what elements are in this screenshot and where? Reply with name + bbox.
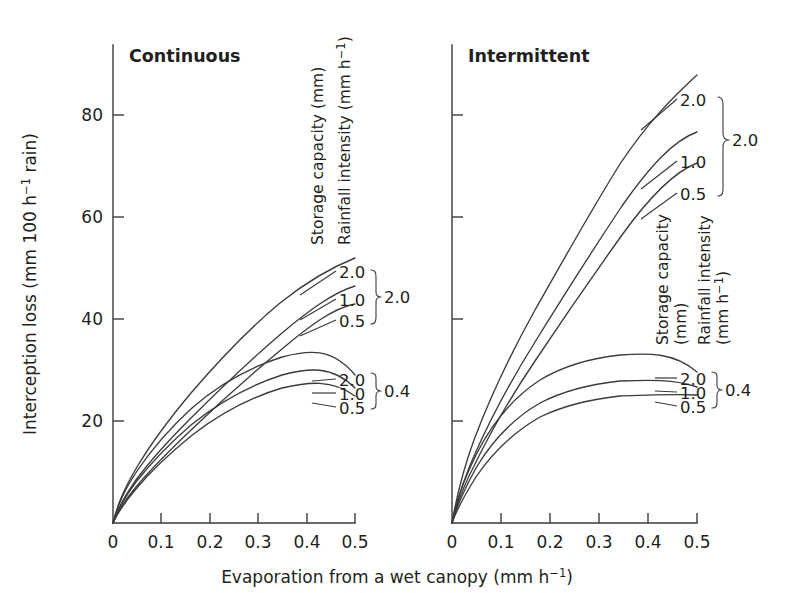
label-intermittent-i2.0-s2.0: 2.0 xyxy=(680,91,706,110)
legend-storage-capacity-intermittent-line1: Storage capacity xyxy=(654,214,672,345)
panel-intermittent-y-ticks xyxy=(452,115,463,421)
group-label-intermittent-0.4: 0.4 xyxy=(725,381,751,400)
x-tick-label-0.5-right: 0.5 xyxy=(683,532,710,552)
label-intermittent-i2.0-s1.0: 1.0 xyxy=(680,153,706,172)
x-tick-label-0.5-left: 0.5 xyxy=(341,532,368,552)
label-continuous-i2.0-s2.0: 2.0 xyxy=(339,263,365,282)
curve-continuous-i0.4-s2.0 xyxy=(113,352,355,523)
x-axis-title: Evaporation from a wet canopy (mm h−1) xyxy=(221,566,573,587)
group-label-intermittent-2.0: 2.0 xyxy=(732,131,758,150)
chart-svg: 20 40 60 80 0 0.1 0.2 0.3 0.4 0.5 Contin… xyxy=(0,0,794,593)
label-continuous-i0.4-s0.5: 0.5 xyxy=(339,399,365,418)
figure-container: 20 40 60 80 0 0.1 0.2 0.3 0.4 0.5 Contin… xyxy=(0,0,794,593)
panel-continuous: 20 40 60 80 0 0.1 0.2 0.3 0.4 0.5 Contin… xyxy=(81,36,410,552)
label-intermittent-i0.4-s0.5: 0.5 xyxy=(680,398,706,417)
x-axis-title-sup: −1 xyxy=(549,566,566,580)
svg-text:(mm h−1): (mm h−1) xyxy=(712,271,732,345)
curve-intermittent-i0.4-s0.5 xyxy=(452,395,697,523)
y-axis-title-tail: rain) xyxy=(20,133,40,178)
x-tick-label-0.1-right: 0.1 xyxy=(487,532,514,552)
x-tick-label-0.2-left: 0.2 xyxy=(196,532,223,552)
x-tick-label-0.4-left: 0.4 xyxy=(293,532,320,552)
legend-storage-capacity-intermittent-line2: (mm) xyxy=(672,303,690,345)
legend-storage-capacity-continuous: Storage capacity (mm) xyxy=(309,67,327,245)
panel-title-continuous: Continuous xyxy=(129,46,241,66)
y-axis-title: Interception loss (mm 100 h−1 rain) xyxy=(19,133,40,435)
label-continuous-i2.0-s0.5: 0.5 xyxy=(339,312,365,331)
y-axis-title-text: Interception loss (mm 100 h xyxy=(20,195,40,435)
legend-rainfall-intensity-intermittent-line2: (mm h−1) xyxy=(712,271,732,345)
annotation-continuous-group-2.0: 2.0 1.0 0.5 2.0 xyxy=(300,263,410,336)
x-tick-label-0.3-right: 0.3 xyxy=(585,532,612,552)
legend-rainfall-intensity-intermittent-tail: ) xyxy=(714,271,732,277)
group-label-continuous-0.4: 0.4 xyxy=(384,382,410,401)
legend-rainfall-intensity-continuous-unit: (mm h xyxy=(336,59,354,110)
x-tick-label-0.1-left: 0.1 xyxy=(147,532,174,552)
svg-text:Interception loss (mm 100 h−1: Interception loss (mm 100 h−1 rain) xyxy=(19,133,40,435)
x-tick-label-0.4-right: 0.4 xyxy=(634,532,661,552)
label-intermittent-i2.0-s0.5: 0.5 xyxy=(680,185,706,204)
x-tick-label-0.2-right: 0.2 xyxy=(536,532,563,552)
panel-continuous-x-ticks xyxy=(161,513,355,523)
legend-rainfall-intensity-continuous-tail: ) xyxy=(336,36,354,42)
x-axis-title-tail: ) xyxy=(566,567,573,587)
annotation-intermittent-group-0.4: 2.0 1.0 0.5 0.4 xyxy=(655,370,751,417)
group-label-continuous-2.0: 2.0 xyxy=(384,288,410,307)
x-tick-label-0-right: 0 xyxy=(447,532,458,552)
legend-rainfall-intensity-continuous-sup: −1 xyxy=(334,42,348,59)
y-tick-label-20: 20 xyxy=(81,411,103,431)
label-continuous-i2.0-s1.0: 1.0 xyxy=(339,291,365,310)
curve-continuous-i2.0-s0.5 xyxy=(113,304,355,523)
y-tick-label-60: 60 xyxy=(81,207,103,227)
legend-rainfall-intensity-continuous: Rainfall intensity (mm h−1) xyxy=(334,36,354,245)
svg-text:Rainfall intensity (mm h−1): Rainfall intensity (mm h−1) xyxy=(334,36,354,245)
panel-intermittent: 0 0.1 0.2 0.3 0.4 0.5 Intermittent 2.0 1… xyxy=(447,45,759,552)
annotation-intermittent-group-2.0: 2.0 1.0 0.5 2.0 xyxy=(641,91,758,219)
legend-rainfall-intensity-continuous-text: Rainfall intensity xyxy=(336,115,354,245)
annotation-continuous-group-0.4: 2.0 1.0 0.5 0.4 xyxy=(312,371,410,418)
y-tick-label-40: 40 xyxy=(81,309,103,329)
panel-continuous-y-ticks xyxy=(113,115,124,421)
x-tick-label-0.3-left: 0.3 xyxy=(244,532,271,552)
y-axis-title-sup: −1 xyxy=(19,178,33,195)
panel-intermittent-x-ticks xyxy=(501,513,697,523)
x-tick-label-0-left: 0 xyxy=(108,532,119,552)
panel-title-intermittent: Intermittent xyxy=(468,46,590,66)
y-tick-label-80: 80 xyxy=(81,105,103,125)
legend-rainfall-intensity-intermittent-sup: −1 xyxy=(712,277,726,294)
legend-rainfall-intensity-intermittent-unit: (mm h xyxy=(714,294,732,345)
x-axis-title-text: Evaporation from a wet canopy (mm h xyxy=(221,567,549,587)
